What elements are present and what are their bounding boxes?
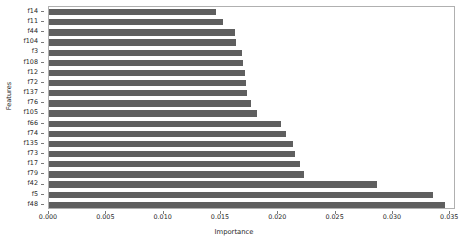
y-tick-label-f79: f79 xyxy=(28,170,38,176)
bar-f42 xyxy=(49,181,377,187)
y-tick-mark xyxy=(41,42,44,43)
bar-row xyxy=(49,141,454,147)
bar-row xyxy=(49,181,454,187)
y-tick-label-f5: f5 xyxy=(32,191,38,197)
x-tick-label-0.005: 0.005 xyxy=(96,214,114,220)
y-tick-label-f48: f48 xyxy=(28,201,38,207)
bar-f135 xyxy=(49,141,293,147)
bar-f105 xyxy=(49,110,257,116)
y-tick-mark xyxy=(41,11,44,12)
y-tick-mark xyxy=(41,173,44,174)
bar-row xyxy=(49,80,454,86)
bar-f73 xyxy=(49,151,295,157)
y-tick-label-f44: f44 xyxy=(28,28,38,34)
x-tick-label-0.015: 0.015 xyxy=(211,214,229,220)
plot-area xyxy=(48,6,455,209)
y-tick-label-f76: f76 xyxy=(28,99,38,105)
y-tick-label-f3: f3 xyxy=(32,48,38,54)
bar-row xyxy=(49,192,454,198)
bar-f66 xyxy=(49,121,281,127)
y-tick-label-f104: f104 xyxy=(24,38,38,44)
y-tick-mark xyxy=(41,52,44,53)
bar-row xyxy=(49,70,454,76)
y-tick-mark xyxy=(41,102,44,103)
y-tick-label-f14: f14 xyxy=(28,8,38,14)
bar-f74 xyxy=(49,131,286,137)
bar-row xyxy=(49,50,454,56)
y-tick-label-f11: f11 xyxy=(28,18,38,24)
bar-row xyxy=(49,121,454,127)
bar-f108 xyxy=(49,60,243,66)
bar-row xyxy=(49,110,454,116)
x-tick-label-0.010: 0.010 xyxy=(153,214,171,220)
y-tick-mark xyxy=(41,113,44,114)
y-tick-mark xyxy=(41,133,44,134)
bar-row xyxy=(49,100,454,106)
y-tick-mark xyxy=(41,72,44,73)
bar-f76 xyxy=(49,100,251,106)
x-tick-label-0.035: 0.035 xyxy=(440,214,458,220)
bar-f79 xyxy=(49,171,304,177)
y-tick-mark xyxy=(41,143,44,144)
bar-f104 xyxy=(49,39,236,45)
bar-row xyxy=(49,60,454,66)
bar-f17 xyxy=(49,161,300,167)
y-tick-mark xyxy=(41,123,44,124)
bar-row xyxy=(49,171,454,177)
y-tick-mark xyxy=(41,82,44,83)
bars-layer xyxy=(49,7,454,208)
y-tick-mark xyxy=(41,204,44,205)
x-tick-label-0.020: 0.020 xyxy=(268,214,286,220)
bar-row xyxy=(49,29,454,35)
bar-row xyxy=(49,90,454,96)
y-tick-label-f17: f17 xyxy=(28,160,38,166)
y-tick-mark xyxy=(41,184,44,185)
bar-f72 xyxy=(49,80,246,86)
y-tick-label-f137: f137 xyxy=(24,89,38,95)
y-tick-mark xyxy=(41,194,44,195)
y-tick-label-f108: f108 xyxy=(24,59,38,65)
bar-f3 xyxy=(49,50,242,56)
bar-f12 xyxy=(49,70,245,76)
x-axis-tick-labels: 0.0000.0050.0100.0150.0200.0250.0300.035 xyxy=(0,211,468,223)
bar-f137 xyxy=(49,90,247,96)
y-tick-mark xyxy=(41,21,44,22)
bar-row xyxy=(49,161,454,167)
bar-row xyxy=(49,19,454,25)
bar-row xyxy=(49,202,454,208)
y-tick-label-f42: f42 xyxy=(28,180,38,186)
bar-row xyxy=(49,9,454,15)
y-tick-label-f73: f73 xyxy=(28,150,38,156)
bar-row xyxy=(49,39,454,45)
bar-f44 xyxy=(49,29,235,35)
y-tick-mark xyxy=(41,163,44,164)
y-tick-label-f74: f74 xyxy=(28,130,38,136)
y-tick-label-f66: f66 xyxy=(28,120,38,126)
y-tick-mark xyxy=(41,153,44,154)
x-axis-title: Importance xyxy=(0,228,468,236)
bar-row xyxy=(49,131,454,137)
x-tick-label-0.000: 0.000 xyxy=(39,214,57,220)
y-tick-label-f12: f12 xyxy=(28,69,38,75)
y-tick-label-f135: f135 xyxy=(24,140,38,146)
y-tick-label-f105: f105 xyxy=(24,109,38,115)
bar-f48 xyxy=(49,202,445,208)
y-tick-mark xyxy=(41,62,44,63)
bar-f11 xyxy=(49,19,223,25)
y-tick-mark xyxy=(41,92,44,93)
x-tick-label-0.025: 0.025 xyxy=(325,214,343,220)
bar-row xyxy=(49,151,454,157)
y-axis-tick-labels: f14f11f44f104f3f108f12f72f137f76f105f66f… xyxy=(0,6,44,209)
feature-importance-chart: Features f14f11f44f104f3f108f12f72f137f7… xyxy=(0,0,468,249)
x-tick-label-0.030: 0.030 xyxy=(383,214,401,220)
y-tick-mark xyxy=(41,31,44,32)
bar-f5 xyxy=(49,192,433,198)
bar-f14 xyxy=(49,9,216,15)
y-tick-label-f72: f72 xyxy=(28,79,38,85)
